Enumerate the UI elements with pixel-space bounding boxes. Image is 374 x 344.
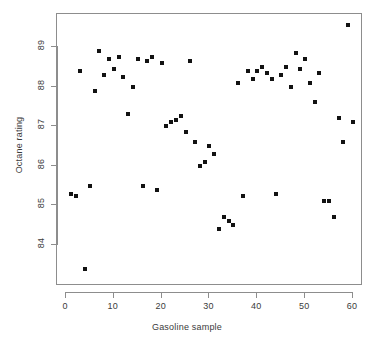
x-axis-tick bbox=[208, 292, 209, 298]
y-axis-tick bbox=[51, 244, 57, 245]
data-point bbox=[217, 227, 221, 231]
data-point bbox=[327, 199, 331, 203]
data-point bbox=[107, 57, 111, 61]
data-point bbox=[102, 73, 106, 77]
x-axis-tick-label: 30 bbox=[193, 301, 223, 311]
data-point bbox=[97, 49, 101, 53]
y-axis-tick bbox=[51, 46, 57, 47]
data-point bbox=[308, 81, 312, 85]
x-axis-tick-label: 20 bbox=[146, 301, 176, 311]
x-axis-tick bbox=[161, 292, 162, 298]
data-point bbox=[227, 219, 231, 223]
data-point bbox=[284, 65, 288, 69]
data-point bbox=[164, 124, 168, 128]
data-point bbox=[332, 215, 336, 219]
data-point bbox=[322, 199, 326, 203]
data-point bbox=[303, 57, 307, 61]
data-point bbox=[184, 130, 188, 134]
y-axis-tick bbox=[51, 125, 57, 126]
x-axis-tick-label: 10 bbox=[98, 301, 128, 311]
data-point bbox=[313, 100, 317, 104]
data-point bbox=[260, 65, 264, 69]
data-point bbox=[74, 194, 78, 198]
data-point bbox=[188, 59, 192, 63]
x-axis-title: Gasoline sample bbox=[0, 322, 374, 332]
y-axis-tick-label: 89 bbox=[0, 40, 46, 50]
data-point bbox=[141, 184, 145, 188]
data-point bbox=[265, 71, 269, 75]
data-point bbox=[270, 77, 274, 81]
y-axis-title: Octane rating bbox=[14, 90, 24, 200]
data-point bbox=[145, 59, 149, 63]
data-point bbox=[251, 77, 255, 81]
x-axis-tick-label: 40 bbox=[241, 301, 271, 311]
data-point bbox=[117, 55, 121, 59]
data-point bbox=[231, 223, 235, 227]
data-point bbox=[212, 152, 216, 156]
x-axis-tick-label: 60 bbox=[337, 301, 367, 311]
data-point bbox=[246, 69, 250, 73]
data-point bbox=[179, 114, 183, 118]
data-point bbox=[69, 192, 73, 196]
data-point bbox=[351, 120, 355, 124]
y-axis-tick bbox=[51, 165, 57, 166]
x-axis-tick bbox=[65, 292, 66, 298]
data-point bbox=[255, 69, 259, 73]
data-point bbox=[169, 120, 173, 124]
y-axis-tick bbox=[51, 204, 57, 205]
data-point bbox=[341, 140, 345, 144]
data-point bbox=[241, 194, 245, 198]
plot-area bbox=[56, 13, 362, 285]
data-point bbox=[126, 112, 130, 116]
x-axis-tick bbox=[304, 292, 305, 298]
x-axis-tick bbox=[113, 292, 114, 298]
data-point bbox=[136, 57, 140, 61]
data-point bbox=[160, 61, 164, 65]
y-axis-tick-label: 88 bbox=[0, 80, 46, 90]
data-point bbox=[346, 23, 350, 27]
data-point bbox=[78, 69, 82, 73]
data-point bbox=[193, 140, 197, 144]
y-axis-line bbox=[57, 46, 58, 245]
data-point bbox=[150, 55, 154, 59]
data-point bbox=[83, 267, 87, 271]
data-point bbox=[131, 85, 135, 89]
data-point bbox=[298, 67, 302, 71]
data-point bbox=[289, 85, 293, 89]
data-point bbox=[88, 184, 92, 188]
data-point bbox=[93, 89, 97, 93]
data-point bbox=[222, 215, 226, 219]
x-axis-tick-label: 50 bbox=[289, 301, 319, 311]
data-point bbox=[236, 81, 240, 85]
scatter-plot-figure: 848586878889 0102030405060 Gasoline samp… bbox=[0, 0, 374, 344]
x-axis-tick bbox=[352, 292, 353, 298]
x-axis-tick-label: 0 bbox=[50, 301, 80, 311]
data-point bbox=[294, 51, 298, 55]
data-point bbox=[198, 164, 202, 168]
data-point bbox=[279, 73, 283, 77]
data-point bbox=[207, 144, 211, 148]
y-axis-tick bbox=[51, 86, 57, 87]
data-point bbox=[121, 75, 125, 79]
y-axis-tick-label: 84 bbox=[0, 238, 46, 248]
data-point bbox=[203, 160, 207, 164]
data-point bbox=[155, 188, 159, 192]
data-points-layer bbox=[57, 14, 361, 284]
data-point bbox=[317, 71, 321, 75]
data-point bbox=[274, 192, 278, 196]
data-point bbox=[337, 116, 341, 120]
data-point bbox=[112, 67, 116, 71]
x-axis-tick bbox=[256, 292, 257, 298]
data-point bbox=[174, 118, 178, 122]
